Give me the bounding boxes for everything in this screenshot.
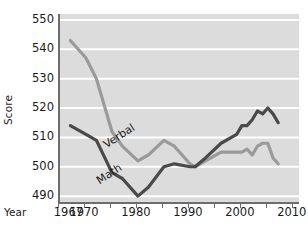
y-tick-label-500: 500	[2, 161, 54, 172]
y-axis-title: Score	[2, 88, 14, 132]
x-tick-mark-1980	[136, 204, 137, 208]
x-tick-mark-2005	[266, 204, 267, 208]
x-tick-mark-1990	[188, 204, 189, 208]
y-tick-label-530: 530	[2, 73, 54, 84]
chart-page: 490500510520530540550 Score Verbal Math …	[0, 0, 308, 233]
y-tick-label-510: 510	[2, 131, 54, 142]
x-tick-mark-2010	[292, 204, 293, 208]
x-tick-mark-2000	[240, 204, 241, 208]
x-tick-mark-1975	[110, 204, 111, 208]
y-tick-label-490: 490	[2, 190, 54, 201]
x-tick-mark-1985	[162, 204, 163, 208]
y-tick-label-550: 550	[2, 14, 54, 25]
x-axis-tick-labels: Year 196719701980199020002010	[0, 206, 308, 228]
x-tick-mark-1965	[58, 204, 59, 208]
x-tick-mark-1995	[214, 204, 215, 208]
y-tick-label-540: 540	[2, 43, 54, 54]
x-axis-title: Year	[4, 206, 26, 219]
x-tick-mark-1970	[84, 204, 85, 208]
